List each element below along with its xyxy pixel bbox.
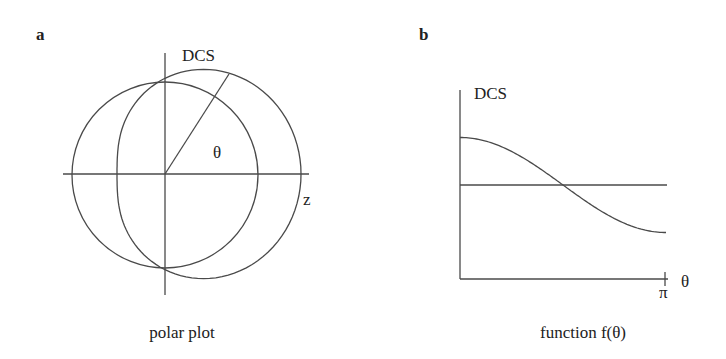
theta-label-a: θ	[213, 143, 221, 162]
panel-b-function-plot: b DCS θ π function f(θ)	[419, 25, 689, 342]
caption-function: function f(θ)	[540, 323, 626, 342]
caption-polar-plot: polar plot	[149, 323, 215, 342]
pi-label: π	[659, 283, 668, 302]
dcs-label-b: DCS	[474, 84, 507, 103]
panel-b-letter: b	[419, 25, 428, 44]
dcs-label-a: DCS	[182, 46, 215, 65]
figure: a DCS z θ polar plot b DCS θ π function …	[0, 0, 726, 359]
theta-label-b: θ	[681, 272, 689, 291]
panel-a-polar-plot: a DCS z θ polar plot	[36, 25, 311, 342]
z-label: z	[303, 190, 311, 209]
panel-a-letter: a	[36, 25, 45, 44]
